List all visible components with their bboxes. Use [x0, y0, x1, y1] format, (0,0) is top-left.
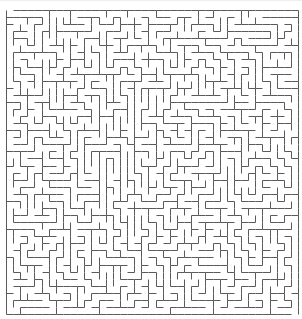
maze-board	[0, 0, 302, 319]
